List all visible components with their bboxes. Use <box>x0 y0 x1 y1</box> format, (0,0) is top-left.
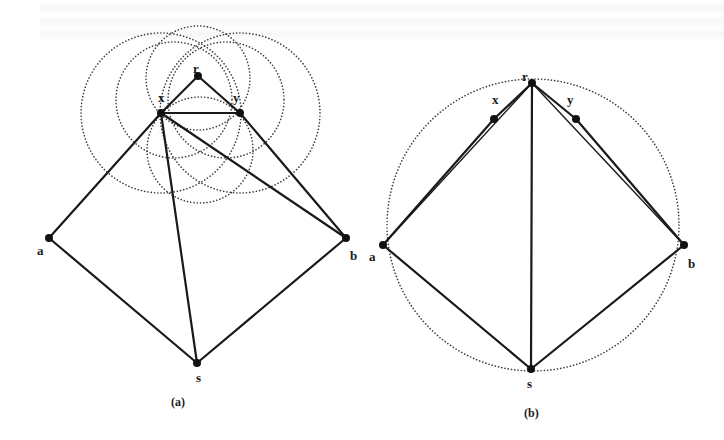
edge-x-a <box>49 113 161 238</box>
edge-a-s <box>383 245 531 369</box>
node-a <box>379 241 387 249</box>
edge-r-b <box>532 83 684 245</box>
label-b-s: s <box>527 377 532 390</box>
edge-r-s <box>531 83 532 369</box>
edge-s-b <box>197 238 346 363</box>
edge-s-b <box>531 245 684 369</box>
label-a-x: x <box>158 91 165 104</box>
panel-a-graph <box>45 26 350 367</box>
caption-a: (a) <box>171 396 185 408</box>
edge-y-b <box>576 119 684 245</box>
label-a-a: a <box>37 244 44 257</box>
node-a <box>45 234 53 242</box>
label-a-r: r <box>193 62 199 75</box>
node-x <box>490 115 498 123</box>
label-b-y: y <box>567 93 574 106</box>
label-a-b: b <box>350 249 357 262</box>
node-s <box>527 365 535 373</box>
node-y <box>572 115 580 123</box>
node-b <box>342 234 350 242</box>
dotted-circle <box>387 79 679 371</box>
edge-a-s <box>49 238 197 363</box>
label-b-x: x <box>492 93 499 106</box>
figure-canvas <box>0 0 724 440</box>
caption-b: (b) <box>524 407 539 419</box>
label-a-s: s <box>196 371 201 384</box>
node-r <box>528 79 536 87</box>
edge-x-b <box>161 113 346 238</box>
node-s <box>193 359 201 367</box>
label-b-b: b <box>688 257 695 270</box>
node-x <box>157 109 165 117</box>
panel-b-graph <box>379 79 688 373</box>
edge-x-s <box>161 113 197 363</box>
node-y <box>236 109 244 117</box>
node-b <box>680 241 688 249</box>
edge-y-b <box>240 113 346 238</box>
edge-r-a <box>383 83 532 245</box>
label-b-a: a <box>369 250 376 263</box>
label-b-r: r <box>522 70 528 83</box>
label-a-y: y <box>233 91 240 104</box>
